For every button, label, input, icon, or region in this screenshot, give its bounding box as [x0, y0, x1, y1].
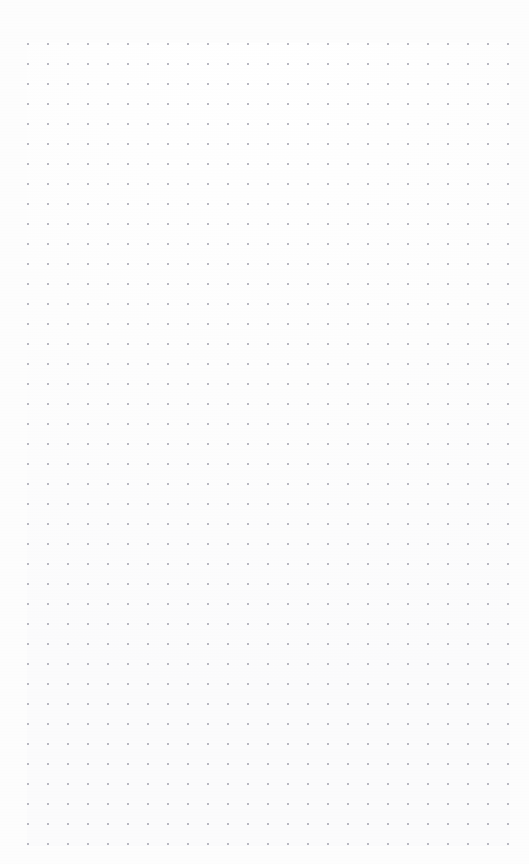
dot-grid-page[interactable]: Dot Grid Page: [0, 0, 529, 864]
dot-grid-pattern: [0, 0, 529, 864]
